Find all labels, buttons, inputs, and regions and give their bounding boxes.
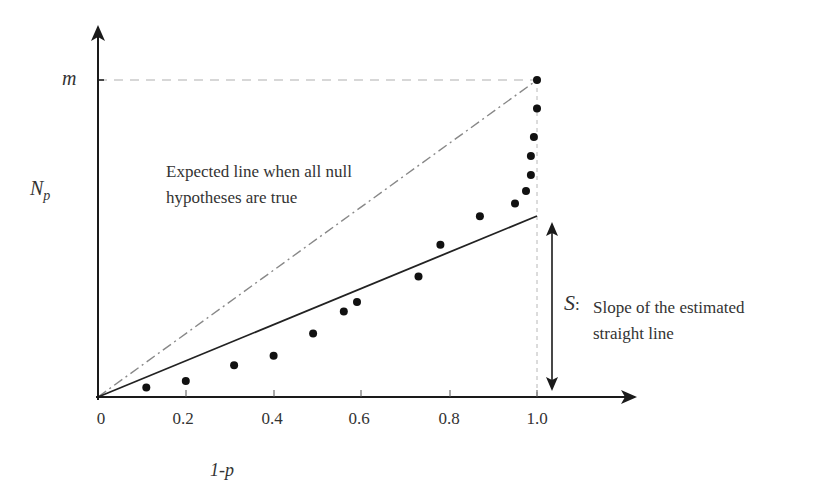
y-axis-label-sub: p: [43, 188, 50, 203]
slope-symbol-letter: S: [564, 290, 575, 315]
x-axis-label: 1-p: [210, 460, 234, 481]
expected-line: [98, 80, 537, 397]
x-ticks: [186, 390, 537, 397]
data-point: [309, 330, 317, 338]
data-point: [340, 307, 348, 315]
data-point: [415, 273, 423, 281]
x-tick-label-0: 0: [97, 409, 106, 429]
m-label: m: [62, 67, 76, 90]
slope-annotation: Slope of the estimated straight line: [593, 295, 745, 347]
data-point: [476, 212, 484, 220]
x-tick-label-0.2: 0.2: [172, 409, 193, 429]
data-point: [142, 384, 150, 392]
slope-symbol-colon: :: [575, 295, 580, 314]
data-point: [230, 361, 238, 369]
data-point: [182, 377, 190, 385]
expected-line-annotation-line1: Expected line when all null: [166, 159, 352, 185]
x-tick-label-0.6: 0.6: [348, 409, 369, 429]
data-point: [522, 187, 530, 195]
data-point: [530, 133, 538, 141]
data-point: [527, 171, 535, 179]
expected-line-annotation: Expected line when all null hypotheses a…: [166, 159, 352, 211]
chart-canvas: [0, 0, 821, 504]
expected-line-annotation-line2: hypotheses are true: [166, 185, 352, 211]
data-point: [353, 298, 361, 306]
data-points: [142, 76, 541, 392]
slope-annotation-line1: Slope of the estimated: [593, 295, 745, 321]
estimated-line: [98, 216, 537, 397]
y-axis-label-main: N: [30, 177, 43, 199]
data-point: [533, 105, 541, 113]
data-point: [436, 241, 444, 249]
x-tick-label-0.8: 0.8: [438, 409, 459, 429]
data-point: [270, 352, 278, 360]
slope-annotation-line2: straight line: [593, 321, 745, 347]
y-axis-label: Np: [30, 177, 50, 204]
data-point: [527, 152, 535, 160]
data-point: [511, 200, 519, 208]
x-tick-label-1.0: 1.0: [526, 409, 547, 429]
data-point: [533, 76, 541, 84]
slope-symbol: S:: [564, 290, 580, 316]
x-tick-label-0.4: 0.4: [261, 409, 282, 429]
